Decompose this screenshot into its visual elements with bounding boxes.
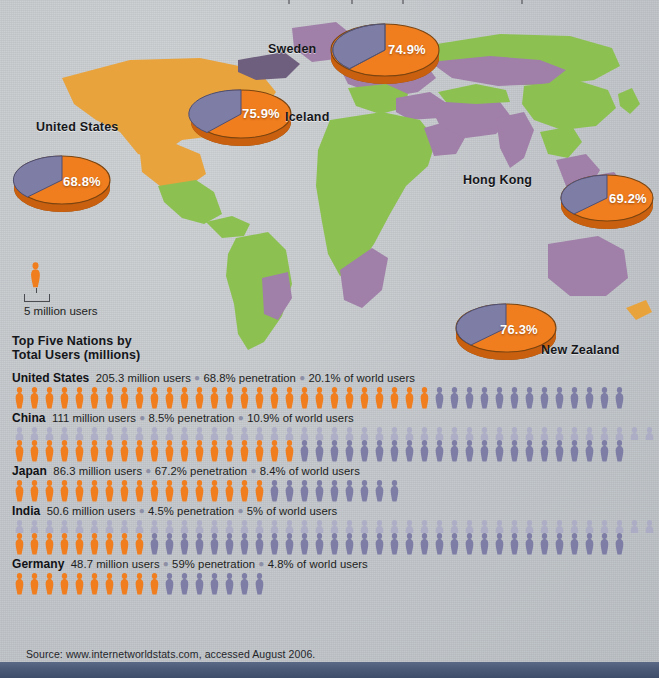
pie-percent-hong-kong: 69.2%	[609, 191, 647, 206]
person-icon	[42, 440, 57, 462]
person-icon	[57, 427, 72, 440]
person-icon	[147, 427, 162, 440]
pie-chart-hong-kong: 69.2%	[557, 160, 659, 236]
person-icon	[12, 533, 27, 555]
bullet-icon: ●	[237, 505, 243, 516]
person-icon	[447, 427, 462, 440]
person-icon	[252, 533, 267, 555]
pie-percent-sweden: 74.9%	[388, 42, 426, 57]
person-icon	[402, 387, 417, 409]
person-icon	[117, 440, 132, 462]
bullet-icon: ●	[139, 505, 145, 516]
person-icon	[492, 533, 507, 555]
person-icon	[237, 533, 252, 555]
person-icon	[597, 520, 612, 533]
person-icon	[117, 387, 132, 409]
person-icon	[327, 480, 342, 502]
chart-row-country: India	[12, 504, 40, 518]
bullet-icon: ●	[163, 558, 169, 569]
person-icon	[417, 533, 432, 555]
person-icon	[177, 427, 192, 440]
person-icon	[147, 573, 162, 595]
person-icon	[342, 387, 357, 409]
person-icon	[252, 440, 267, 462]
person-icon	[267, 480, 282, 502]
legend-caption: 5 million users	[24, 305, 98, 317]
person-icon	[312, 520, 327, 533]
person-icon	[117, 520, 132, 533]
chart-row-header: Japan 86.3 million users ● 67.2% penetra…	[12, 464, 659, 478]
chart-row-pictograms	[12, 520, 659, 555]
person-icon	[72, 573, 87, 595]
person-icon	[522, 387, 537, 409]
bullet-icon: ●	[250, 465, 256, 476]
person-icon	[522, 533, 537, 555]
chart-row-pictograms	[12, 427, 659, 462]
person-icon	[27, 440, 42, 462]
person-icon	[387, 520, 402, 533]
person-icon	[327, 520, 342, 533]
person-icon	[642, 427, 657, 440]
person-icon	[612, 427, 627, 440]
chart-row-world-share: 10.9% of world users	[247, 412, 354, 424]
person-icon	[462, 440, 477, 462]
person-icon	[282, 480, 297, 502]
person-icon	[417, 427, 432, 440]
chart-row-country: China	[12, 411, 46, 425]
pictogram-row-lower	[12, 480, 659, 502]
chart-row: India 50.6 million users ● 4.5% penetrat…	[12, 504, 659, 555]
person-icon	[27, 573, 42, 595]
person-icon	[417, 387, 432, 409]
person-icon	[237, 573, 252, 595]
pie-chart-sweden: 74.9%	[325, 6, 445, 90]
person-icon	[282, 520, 297, 533]
person-icon	[147, 387, 162, 409]
person-icon	[267, 440, 282, 462]
person-icon	[507, 387, 522, 409]
cut-off-title-mark	[521, 0, 523, 4]
person-icon	[252, 573, 267, 595]
person-icon	[372, 427, 387, 440]
person-icon	[552, 440, 567, 462]
person-icon	[372, 533, 387, 555]
person-icon	[492, 387, 507, 409]
person-icon	[342, 480, 357, 502]
person-icon	[507, 427, 522, 440]
person-icon	[57, 520, 72, 533]
pictogram-row-upper	[12, 520, 659, 533]
person-icon	[567, 520, 582, 533]
person-icon	[342, 427, 357, 440]
person-icon	[327, 387, 342, 409]
person-icon	[72, 440, 87, 462]
person-icon	[642, 520, 657, 533]
person-icon	[237, 520, 252, 533]
person-icon	[582, 533, 597, 555]
person-icon	[387, 533, 402, 555]
person-icon	[567, 440, 582, 462]
person-icon	[567, 533, 582, 555]
bullet-icon: ●	[299, 372, 305, 383]
person-icon	[42, 520, 57, 533]
bullet-icon: ●	[238, 412, 244, 423]
person-icon	[222, 427, 237, 440]
person-icon	[597, 387, 612, 409]
chart-row-pictograms	[12, 573, 659, 595]
person-icon	[162, 387, 177, 409]
person-icon	[12, 427, 27, 440]
person-icon	[432, 533, 447, 555]
person-icon	[132, 520, 147, 533]
person-icon	[357, 387, 372, 409]
chart-row-pictograms	[12, 480, 659, 502]
person-icon	[177, 440, 192, 462]
chart-title-line2: Total Users (millions)	[12, 348, 140, 362]
person-icon	[402, 533, 417, 555]
person-icon	[357, 520, 372, 533]
person-icon	[582, 427, 597, 440]
person-icon	[297, 427, 312, 440]
person-icon	[402, 440, 417, 462]
infographic-page: 74.9% Sweden 75.9% Iceland 68.8% United …	[0, 0, 659, 678]
person-icon	[177, 387, 192, 409]
person-icon	[492, 520, 507, 533]
person-icon	[522, 427, 537, 440]
chart-row-world-share: 5% of world users	[247, 505, 338, 517]
